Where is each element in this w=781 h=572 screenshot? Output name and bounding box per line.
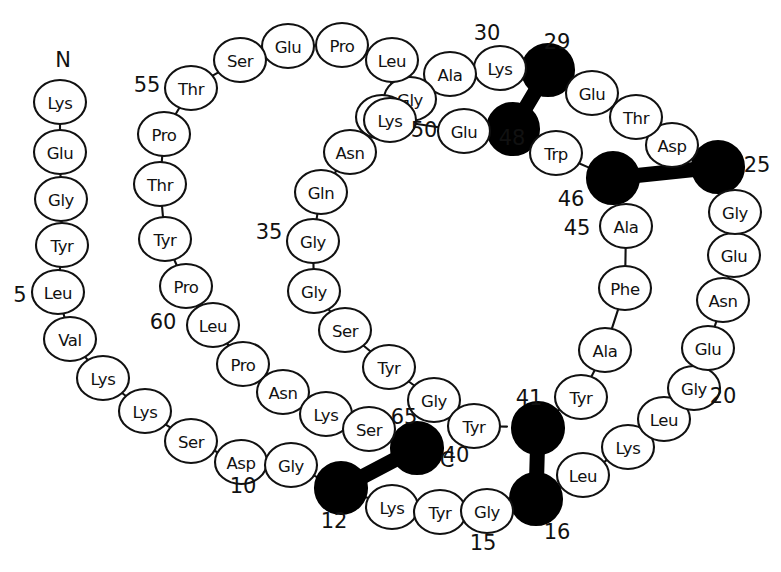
residue-node: Lys	[364, 98, 416, 142]
residue-label: Lys	[133, 403, 158, 422]
residue-label: Lys	[380, 499, 405, 518]
residue-node: Leu	[366, 38, 418, 82]
residue-node: Lys	[366, 485, 418, 529]
residue-label: Lys	[616, 439, 641, 458]
residue-label: Ala	[614, 218, 639, 237]
residue-label: Gly	[474, 503, 501, 522]
residue-number-label: 55	[134, 73, 161, 97]
residue-node: Thr	[610, 95, 662, 139]
residue-number-label: 15	[470, 531, 497, 555]
residue-node: Leu	[32, 270, 84, 314]
residue-node: Tyr	[555, 375, 607, 419]
residue-label: Glu	[47, 144, 74, 163]
residue-label: Gln	[308, 184, 335, 203]
residue-number-label: 30	[474, 21, 501, 45]
residue-label: Lys	[488, 60, 513, 79]
residue-node: Glu	[262, 24, 314, 68]
residue-node: Gly	[709, 190, 761, 234]
residue-node: Lys	[34, 80, 86, 124]
residue-node: Gly	[461, 489, 513, 533]
residue-label: Leu	[378, 52, 406, 71]
residue-node: Lys	[77, 356, 129, 400]
residue-node: Glu	[34, 130, 86, 174]
residue-number-label: 46	[558, 187, 585, 211]
residue-label: Asn	[708, 292, 737, 311]
cysteine-residue-filled	[391, 422, 443, 474]
peptide-bond	[611, 307, 619, 330]
residue-label: Trp	[543, 145, 568, 164]
residue-node: Asn	[324, 130, 376, 174]
residue-label: Tyr	[462, 418, 486, 437]
residue-node: Gly	[287, 219, 339, 263]
cysteine-residue-filled	[587, 152, 639, 204]
residue-label: Lys	[48, 94, 73, 113]
residue-label: Tyr	[377, 359, 401, 378]
residue-number-label: 12	[321, 509, 348, 533]
residue-label: Gly	[722, 204, 749, 223]
cysteine-residue-filled	[692, 141, 744, 193]
residue-node: Phe	[599, 266, 651, 310]
residue-label: Gly	[278, 457, 305, 476]
residue-node: Ser	[214, 38, 266, 82]
residue-label: Ser	[178, 433, 205, 452]
residue-node: Gly	[265, 443, 317, 487]
residue-node: Gly	[35, 177, 87, 221]
residue-node: Gln	[295, 170, 347, 214]
residue-label: Thr	[622, 109, 650, 128]
residue-node: Tyr	[363, 345, 415, 389]
residue-node: Ser	[319, 308, 371, 352]
residue-label: Asn	[335, 144, 364, 163]
residue-node: Lys	[474, 46, 526, 90]
residue-number-label: 20	[710, 384, 737, 408]
residue-label: Tyr	[428, 504, 452, 523]
residue-number-label: 45	[564, 216, 591, 240]
residue-number-label: 48	[499, 126, 526, 150]
residue-label: Lys	[91, 370, 116, 389]
residue-label: Glu	[721, 247, 748, 266]
residue-node: Gly	[288, 269, 340, 313]
residue-node: Leu	[557, 453, 609, 497]
residue-node: Tyr	[414, 490, 466, 534]
residue-node: Glu	[438, 109, 490, 153]
residue-node: Tyr	[139, 217, 191, 261]
residue-node: Asn	[697, 278, 749, 322]
residue-number-label: 10	[230, 474, 257, 498]
residue-number-label: 60	[150, 310, 177, 334]
residue-label: Lys	[314, 406, 339, 425]
residue-label: Gly	[300, 233, 327, 252]
residue-label: Ser	[227, 52, 254, 71]
residue-label: Glu	[695, 340, 722, 359]
residue-label: Val	[58, 331, 82, 350]
residue-label: Pro	[330, 37, 355, 56]
residue-label: Tyr	[50, 237, 74, 256]
residue-node: Tyr	[448, 404, 500, 448]
residue-label: Glu	[275, 38, 302, 57]
residue-label: Thr	[177, 80, 205, 99]
residue-node: Ser	[343, 407, 395, 451]
residue-node: Tyr	[36, 223, 88, 267]
residue-label: Pro	[231, 356, 256, 375]
residue-label: Ser	[332, 322, 359, 341]
residue-node: Ser	[165, 419, 217, 463]
residue-label: Gly	[421, 392, 448, 411]
residue-label: Asp	[226, 454, 255, 473]
residue-node: Pro	[138, 112, 190, 156]
protein-sequence-diagram: LysGluGlyTyrLeuValLysLysSerAspGlyLysTyrG…	[0, 0, 781, 572]
residue-node: Glu	[708, 233, 760, 277]
residue-label: Glu	[451, 123, 478, 142]
residue-node: Pro	[160, 264, 212, 308]
residue-label: Gly	[301, 283, 328, 302]
terminus-label-c: C	[440, 448, 455, 472]
residue-node: Leu	[187, 303, 239, 347]
residue-node: Lys	[119, 389, 171, 433]
residue-label: Ser	[356, 421, 383, 440]
residue-number-label: 65	[391, 405, 418, 429]
residue-number-label: 29	[544, 30, 571, 54]
residue-label: Lys	[378, 112, 403, 131]
residue-node: Ala	[579, 328, 631, 372]
residue-number-label: 41	[516, 386, 543, 410]
residue-number-label: 16	[544, 520, 571, 544]
residue-label: Phe	[610, 280, 640, 299]
residue-label: Leu	[650, 411, 678, 430]
residue-label: Ala	[438, 66, 463, 85]
